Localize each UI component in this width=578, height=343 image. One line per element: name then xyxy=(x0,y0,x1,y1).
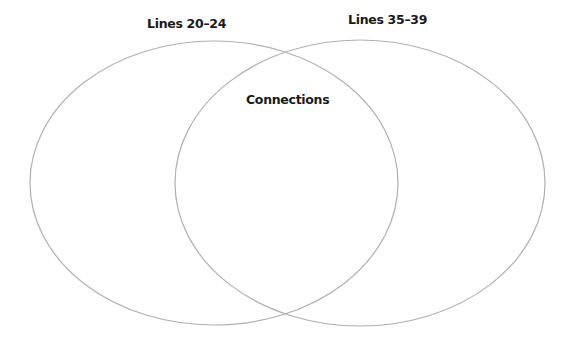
left-set-label: Lines 20–24 xyxy=(147,16,226,31)
venn-diagram xyxy=(0,0,578,343)
left-set-ellipse xyxy=(30,41,398,325)
right-set-label: Lines 35–39 xyxy=(348,12,427,27)
intersection-label: Connections xyxy=(246,92,329,107)
right-set-ellipse xyxy=(175,40,545,326)
